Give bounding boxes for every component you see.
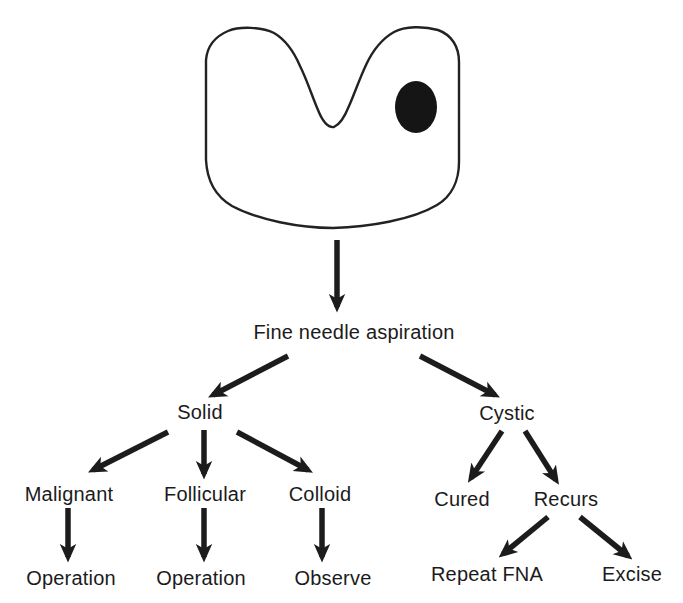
node-recurs: Recurs bbox=[534, 489, 599, 509]
thyroid-fna-flowchart: Fine needle aspiration Solid Cystic Mali… bbox=[0, 0, 683, 603]
arrow-solid-to-malignant bbox=[93, 432, 168, 470]
node-malignant: Malignant bbox=[25, 484, 114, 504]
node-colloid: Colloid bbox=[289, 484, 352, 504]
arrow-fna-to-cystic bbox=[420, 356, 495, 395]
arrow-cystic-to-recurs bbox=[525, 431, 556, 480]
arrow-fna-to-solid bbox=[213, 356, 288, 395]
node-cured: Cured bbox=[434, 489, 489, 509]
node-solid: Solid bbox=[177, 402, 222, 422]
node-operation-malignant: Operation bbox=[26, 568, 116, 588]
node-observe: Observe bbox=[295, 568, 372, 588]
arrow-cystic-to-cured bbox=[471, 431, 502, 478]
node-operation-follicular: Operation bbox=[156, 568, 246, 588]
node-repeat-fna: Repeat FNA bbox=[431, 564, 543, 584]
flowchart-graphics bbox=[0, 0, 683, 603]
node-excise: Excise bbox=[602, 564, 662, 584]
arrow-solid-to-colloid bbox=[237, 432, 308, 470]
arrow-recurs-to-repeat-fna bbox=[503, 517, 548, 554]
node-fine-needle-aspiration: Fine needle aspiration bbox=[253, 322, 454, 342]
node-cystic: Cystic bbox=[479, 403, 535, 423]
node-follicular: Follicular bbox=[164, 484, 246, 504]
thyroid-nodule-dot bbox=[395, 81, 437, 133]
arrow-recurs-to-excise bbox=[580, 517, 628, 556]
